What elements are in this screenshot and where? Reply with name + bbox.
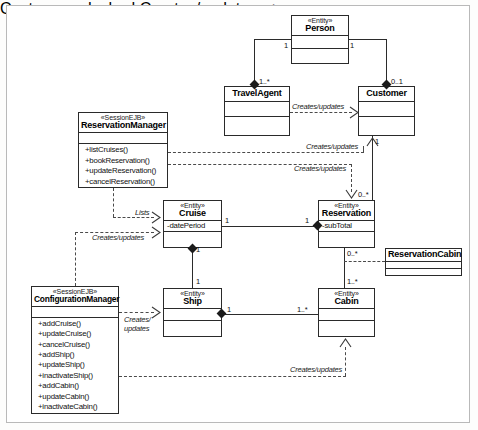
multiplicity-cruise-ship-top: 1	[196, 245, 200, 254]
open-arrow-lists	[151, 211, 162, 224]
class-name: Ship	[166, 297, 219, 306]
class-box-reservation[interactable]: «Entity» Reservation -subTotal	[318, 200, 375, 248]
open-arrow-creates-cruise	[151, 226, 162, 239]
class-header-ship: «Entity» Ship	[164, 289, 221, 309]
dep-travelagent-customer	[290, 112, 352, 113]
class-header-reservationcabin: ReservationCabin	[386, 249, 461, 262]
multiplicity-ship-cruise: 1	[196, 277, 200, 286]
assoc-cruise-reservation	[222, 226, 318, 227]
class-attributes-reservation: -subTotal	[319, 221, 374, 232]
operation-item: +listCruises()	[82, 145, 167, 155]
class-name: ReservationManager	[81, 121, 165, 130]
class-attributes-ship	[164, 309, 221, 321]
class-box-customer[interactable]: Customer	[358, 86, 415, 136]
open-arrow-creates-cabin	[339, 337, 352, 348]
dep-configmgr-cruise-v	[75, 232, 76, 286]
class-operations-reservationcabin	[386, 269, 461, 276]
class-operations-reservationmanager: +listCruises() +bookReservation() +updat…	[79, 144, 167, 189]
assoc-person-customer-v	[386, 39, 387, 84]
class-name: Customer	[361, 89, 412, 98]
edge-label-configmgr-ship-2: updates	[124, 325, 149, 334]
edge-label-configmgr-cruise: Creates/updates	[92, 234, 144, 243]
operation-item: +inactivateCabin()	[35, 402, 118, 412]
dep-resmgr-customer	[168, 152, 364, 153]
dep-resmgr-customer-v	[363, 146, 364, 152]
dep-resmgr-reservation-v	[351, 164, 352, 192]
class-operations-cabin	[319, 321, 374, 333]
class-operations-configurationmanager: +addCruise() +updateCruise() +cancelCrui…	[32, 318, 118, 415]
operation-item: +updateCabin()	[35, 392, 118, 402]
class-name: TravelAgent	[227, 89, 287, 98]
class-operations-reservation	[319, 232, 374, 243]
dep-configmgr-cabin-h	[119, 376, 346, 377]
class-name: Reservation	[321, 209, 372, 218]
class-header-travelagent: TravelAgent	[225, 87, 289, 102]
operation-item: +inactivateShip()	[35, 371, 118, 381]
dep-configmgr-ship	[119, 312, 154, 313]
multiplicity-cabin-reservation: 1..*	[347, 277, 357, 286]
class-box-ship[interactable]: «Entity» Ship	[163, 288, 222, 337]
class-operations-customer	[359, 117, 414, 134]
class-attributes-reservationmanager	[79, 133, 167, 144]
operation-item: +bookReservation()	[82, 156, 167, 166]
class-operations-person	[292, 49, 348, 62]
class-box-configurationmanager[interactable]: «SessionEJB» ConfigurationManager +addCr…	[31, 286, 119, 414]
dep-resmgr-cruise-v	[113, 188, 114, 217]
assoc-person-customer-h	[348, 39, 387, 40]
operation-item: +addCabin()	[35, 381, 118, 391]
multiplicity-reservation-cust: 0..*	[358, 190, 368, 199]
assoc-cruise-ship	[192, 248, 193, 288]
operation-item: +updateReservation()	[82, 166, 167, 176]
dep-configmgr-cabin-v	[345, 347, 346, 376]
uml-diagram-canvas: Customer : dashed Creates/updates -->	[0, 0, 478, 430]
assoc-reservation-cabin	[344, 248, 345, 288]
class-name: Cabin	[321, 297, 372, 306]
class-attributes-reservationcabin	[386, 262, 461, 269]
multiplicity-reservation-cabin: 0..*	[347, 249, 357, 258]
class-box-reservationcabin[interactable]: ReservationCabin	[385, 248, 462, 276]
edge-label-lists: Lists	[135, 209, 149, 218]
class-attributes-cruise: -datePeriod	[164, 221, 221, 232]
operation-item: +addShip()	[35, 350, 118, 360]
attribute-item: -subTotal	[319, 221, 374, 231]
class-box-reservationmanager[interactable]: «SessionEJB» ReservationManager +listCru…	[78, 112, 168, 188]
operation-item: +cancelCruise()	[35, 340, 118, 350]
class-operations-cruise	[164, 232, 221, 243]
class-operations-ship	[164, 321, 221, 333]
multiplicity-reservation-cruise: 1	[305, 216, 309, 225]
multiplicity-customer-res: 1	[375, 137, 379, 146]
class-header-reservationmanager: «SessionEJB» ReservationManager	[79, 113, 167, 133]
assoc-class-link-rescabin	[344, 261, 385, 262]
class-box-person[interactable]: «Entity» Person	[291, 15, 349, 64]
class-box-cruise[interactable]: «Entity» Cruise -datePeriod	[163, 200, 222, 248]
class-header-configurationmanager: «SessionEJB» ConfigurationManager	[32, 287, 118, 307]
operation-item: +updateShip()	[35, 360, 118, 370]
edge-label-resmgr-customer: Creates/updates	[306, 143, 358, 152]
multiplicity-ship-cabin-left: 1	[227, 305, 231, 314]
attribute-item: -datePeriod	[164, 221, 221, 231]
multiplicity-travelagent-end: 1..*	[259, 77, 269, 86]
open-arrow-creates-ship	[151, 306, 162, 319]
assoc-ship-cabin	[222, 314, 318, 315]
class-box-cabin[interactable]: «Entity» Cabin	[318, 288, 375, 337]
class-header-cabin: «Entity» Cabin	[319, 289, 374, 309]
assoc-person-travelagent-h	[254, 39, 292, 40]
assoc-person-travelagent-v	[254, 39, 255, 84]
class-name: ReservationCabin	[388, 250, 459, 259]
multiplicity-cabin-ship: 1..*	[297, 305, 307, 314]
class-attributes-cabin	[319, 309, 374, 321]
class-name: Person	[294, 24, 346, 33]
open-arrow-reservation-top	[345, 189, 358, 200]
class-operations-travelagent	[225, 117, 289, 134]
edge-label-resmgr-reservation: Creates/updates	[294, 165, 346, 174]
class-box-travelagent[interactable]: TravelAgent	[224, 86, 290, 136]
operation-item: +updateCruise()	[35, 329, 118, 339]
class-header-reservation: «Entity» Reservation	[319, 201, 374, 221]
edge-label-configmgr-cabin: Creates/updates	[290, 366, 342, 375]
class-header-cruise: «Entity» Cruise	[164, 201, 221, 221]
class-attributes-person	[292, 36, 348, 49]
class-attributes-configurationmanager	[32, 307, 118, 318]
multiplicity-person-right: 1	[350, 41, 354, 50]
open-arrow-travelagent-customer	[349, 106, 360, 119]
edge-label-travelagent-customer: Creates/updates	[292, 103, 344, 112]
